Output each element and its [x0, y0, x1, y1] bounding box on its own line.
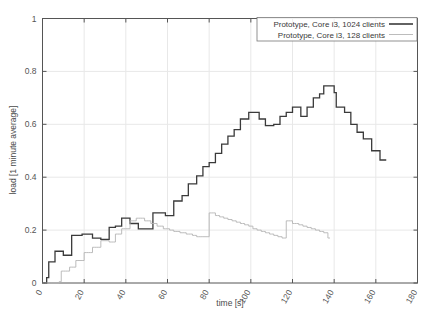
legend-label-0: Prototype, Core i3, 1024 clients — [273, 20, 385, 29]
y-tick-label: 0.4 — [25, 172, 37, 182]
y-tick-label: 0.6 — [25, 119, 37, 129]
chart-legend: Prototype, Core i3, 1024 clientsPrototyp… — [257, 18, 417, 42]
y-tick-label: 0.2 — [25, 225, 37, 235]
chart-container: 00.20.40.60.81 020406080100120140160180 … — [0, 0, 439, 320]
chart-background — [0, 0, 439, 320]
y-tick-label: 0 — [32, 278, 37, 288]
load-time-line-chart: 00.20.40.60.81 020406080100120140160180 … — [0, 0, 439, 320]
y-tick-label: 1 — [32, 14, 37, 24]
y-tick-label: 0.8 — [25, 66, 37, 76]
legend-label-1: Prototype, Core i3, 128 clients — [278, 31, 385, 40]
x-axis-title: time [s] — [216, 298, 243, 308]
y-axis-title: load [1 minute average] — [8, 106, 18, 195]
